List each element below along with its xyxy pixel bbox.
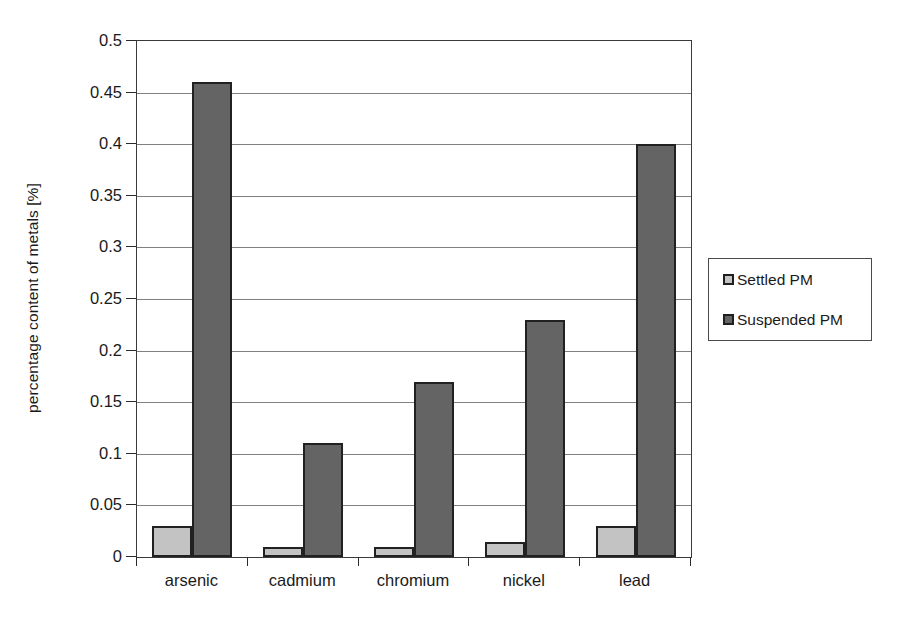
bar[interactable] (485, 542, 525, 557)
y-axis-tick-mark (126, 350, 136, 351)
y-axis-tick-mark (126, 453, 136, 454)
legend-swatch-icon (723, 274, 734, 285)
x-axis-tick-mark (579, 557, 580, 566)
legend-label: Settled PM (737, 272, 813, 288)
y-axis-tick-mark (126, 92, 136, 93)
bar[interactable] (152, 526, 192, 557)
y-axis-tick-mark (126, 298, 136, 299)
bar-group (137, 41, 248, 557)
legend-swatch-icon (723, 314, 734, 325)
bar[interactable] (636, 144, 676, 557)
y-axis-tick-label: 0.1 (46, 445, 122, 462)
x-axis-tick-mark (358, 557, 359, 566)
legend: Settled PMSuspended PM (708, 258, 872, 341)
y-axis-tick-label: 0.45 (46, 83, 122, 100)
y-axis-tick-mark (126, 195, 136, 196)
y-axis-tick-label: 0.3 (46, 238, 122, 255)
x-axis-tick-mark (468, 557, 469, 566)
bar-group (359, 41, 470, 557)
y-axis-tick-mark (126, 246, 136, 247)
y-axis-title: percentage content of metals [%] (22, 40, 44, 556)
y-axis-tick-label: 0.2 (46, 341, 122, 358)
legend-label: Suspended PM (737, 312, 843, 328)
bar[interactable] (414, 382, 454, 557)
bar-chart-figure: percentage content of metals [%] 00.050.… (0, 0, 918, 621)
y-axis-tick-mark (126, 40, 136, 41)
x-axis-tick-mark (690, 557, 691, 566)
bar[interactable] (303, 443, 343, 557)
bar[interactable] (374, 547, 414, 557)
plot-area (136, 40, 692, 558)
y-axis-tick-mark (126, 504, 136, 505)
legend-item[interactable]: Settled PM (723, 272, 859, 288)
x-axis-tick-mark (136, 557, 137, 566)
bar[interactable] (192, 82, 232, 557)
y-axis-tick-mark (126, 143, 136, 144)
y-axis-tick-label: 0.5 (46, 32, 122, 49)
x-axis-category-label: lead (560, 572, 710, 589)
y-axis-tick-label: 0 (46, 548, 122, 565)
y-axis-tick-labels: 00.050.10.150.20.250.30.350.40.450.5 (46, 40, 122, 556)
y-axis-tick-mark (126, 401, 136, 402)
y-axis-tick-label: 0.4 (46, 135, 122, 152)
bar-group (580, 41, 691, 557)
x-axis-tick-mark (247, 557, 248, 566)
bar-group (469, 41, 580, 557)
bar[interactable] (525, 320, 565, 557)
bars-layer (137, 41, 691, 557)
y-axis-tick-label: 0.25 (46, 290, 122, 307)
y-axis-tick-label: 0.05 (46, 496, 122, 513)
y-axis-tick-label: 0.15 (46, 393, 122, 410)
legend-item[interactable]: Suspended PM (723, 312, 859, 328)
bar[interactable] (596, 526, 636, 557)
y-axis-tick-label: 0.35 (46, 187, 122, 204)
bar-group (248, 41, 359, 557)
y-axis-tick-mark (126, 556, 136, 557)
bar[interactable] (263, 547, 303, 557)
